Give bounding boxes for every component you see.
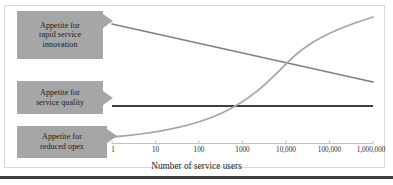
x-axis-title: Number of service users (0, 161, 393, 171)
callout-pointer-service-quality (103, 91, 113, 105)
x-tick-label-100: 100 (194, 146, 205, 154)
x-tick-label-1000: 1000 (235, 146, 249, 154)
x-tick-label-100000: 100,000 (318, 146, 341, 154)
callout-appetite-service-quality: Appetite for service quality (17, 81, 103, 114)
callout-label-reduced-opex: Appetite for reduced opex (40, 132, 84, 151)
callout-pointer-rapid-service-innovation (103, 14, 113, 28)
series-line-reduced-opex (112, 17, 373, 137)
callout-appetite-reduced-opex: Appetite for reduced opex (17, 126, 107, 158)
callout-label-rapid-service-innovation: Appetite for rapid service innovation (39, 21, 81, 50)
callout-appetite-rapid-service-innovation: Appetite for rapid service innovation (17, 11, 103, 59)
callout-pointer-reduced-opex (107, 129, 117, 143)
series-line-rapid-service-innovation (112, 24, 373, 82)
x-tick-label-10000: 10,000 (276, 146, 296, 154)
callout-label-service-quality: Appetite for service quality (36, 88, 84, 107)
x-tick-label-1: 1 (111, 146, 115, 154)
figure-container: 1 10 100 1000 10,000 100,000 1,000,000 N… (0, 0, 393, 185)
x-tick-label-1000000: 1,000,000 (357, 146, 386, 154)
x-tick-label-10: 10 (152, 146, 159, 154)
bottom-divider-rule (0, 176, 393, 179)
